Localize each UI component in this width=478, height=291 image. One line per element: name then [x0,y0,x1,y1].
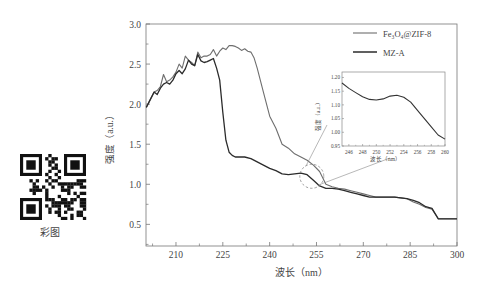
inset-x-tick-label: 250 [372,149,380,155]
x-tick-label: 300 [450,250,465,260]
y-tick-label: 1.5 [129,140,141,150]
inset-x-tick-label: 248 [359,149,367,155]
y-tick-label: 2.0 [129,100,141,110]
x-tick-label: 255 [309,250,324,260]
line-chart: 2102252402552702853000.51.01.52.02.53.0波… [0,0,478,291]
x-tick-label: 225 [216,250,231,260]
inset-y-tick-label: 0.95 [331,143,340,149]
inset-chart: 2462482502522542562582600.951.001.051.10… [314,72,449,163]
x-tick-label: 270 [356,250,371,260]
inset-x-tick-label: 254 [400,149,408,155]
inset-y-tick-label: 1.05 [331,115,340,121]
inset-x-axis-label: 波长（nm） [370,155,401,163]
x-tick-label: 210 [169,250,184,260]
x-tick-label: 285 [403,250,418,260]
main-axes: 2102252402552702853000.51.01.52.02.53.0波… [104,20,464,279]
x-axis-label: 波长（nm） [275,266,328,278]
legend-label: Fe₃O₄@ZIF-8 [383,29,431,39]
inset-y-tick-label: 1.00 [331,129,340,135]
inset-x-tick-label: 260 [441,149,449,155]
inset-y-axis-label: 强度（a.u.） [314,99,322,131]
inset-y-tick-label: 1.10 [331,102,340,108]
inset-frame [342,72,445,146]
inset-x-tick-label: 258 [427,149,435,155]
x-tick-label: 240 [263,250,278,260]
inset-y-tick-label: 1.15 [331,88,340,94]
inset-x-tick-label: 246 [345,149,353,155]
legend: Fe₃O₄@ZIF-8MZ-A [353,29,431,58]
y-tick-label: 3.0 [129,20,141,30]
legend-label: MZ-A [383,48,406,58]
y-tick-label: 1.0 [129,180,141,190]
y-tick-label: 0.5 [129,220,141,230]
inset-x-tick-label: 256 [414,149,422,155]
y-axis-label: 强度（a.u.） [104,110,115,164]
y-tick-label: 2.5 [129,60,141,70]
inset-x-tick-label: 252 [386,149,394,155]
inset-y-tick-label: 1.20 [331,74,340,80]
